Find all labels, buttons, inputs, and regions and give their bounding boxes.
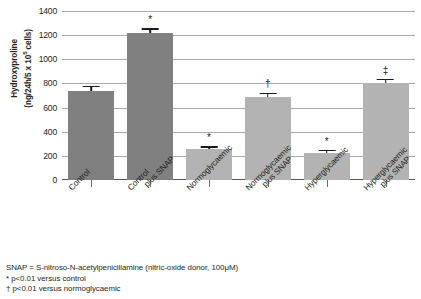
significance-marker: ‡ — [383, 67, 389, 75]
footnote-significance-control: * p<0.01 versus control — [6, 274, 336, 285]
footnote-snap-definition: SNAP = S-nitroso-N-acetylpenicillamine (… — [6, 263, 336, 274]
y-axis-tick-label: 400 — [23, 127, 57, 136]
y-axis-tick-label: 800 — [23, 79, 57, 88]
y-axis-tick-label: 1400 — [23, 7, 57, 16]
significance-marker: * — [325, 138, 329, 146]
y-axis-tick-label: 1200 — [23, 31, 57, 40]
plot-area: **†*‡ — [62, 11, 415, 180]
significance-marker: † — [265, 80, 271, 88]
footnote-significance-normoglycaemic: † p<0.01 versus normoglycaemic — [6, 284, 336, 295]
y-axis-tick-label: 200 — [23, 151, 57, 160]
x-axis-category-labels: ControlControlplus SNAPNormoglycaemicNor… — [0, 186, 421, 258]
bar-slot — [62, 11, 121, 180]
y-axis-tick-label: 1000 — [23, 55, 57, 64]
figure: Hydroxyproline (ng/24h/5 x 105 cells) 14… — [0, 0, 421, 299]
footnote-block: SNAP = S-nitroso-N-acetylpenicillamine (… — [6, 263, 336, 295]
y-axis-title-line1: Hydroxyproline — [10, 39, 19, 98]
significance-marker: * — [207, 134, 211, 142]
y-axis-tick-label: 600 — [23, 103, 57, 112]
bar — [68, 91, 114, 180]
significance-marker: * — [148, 16, 152, 24]
y-axis-tick-label: 0 — [23, 176, 57, 185]
bar-series: **†*‡ — [62, 11, 415, 180]
